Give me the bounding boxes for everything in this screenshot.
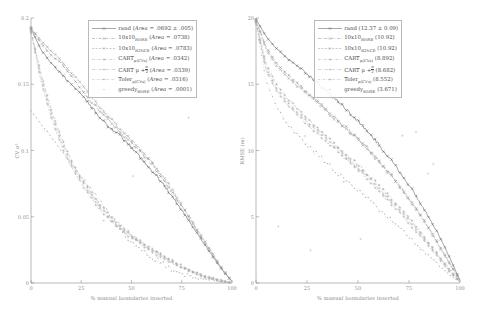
y-tick-label: 0.15 (11, 81, 29, 87)
legend-item: greedyRMSE (Area = .0001) (91, 85, 193, 95)
y-tick-label: 5 (236, 214, 254, 220)
legend-item: 10x10RMSE (Area = .0738) (91, 33, 193, 43)
x-tick-label: 75 (397, 285, 421, 291)
x-tick-label: 75 (170, 285, 194, 291)
legend-line-sample (91, 24, 117, 33)
figure-two-panel: CV σ² % manual boundaries inserted rand … (0, 0, 483, 315)
x-tick-label: 0 (19, 285, 43, 291)
legend-item-label: CARTμ(CVs) (8.892) (343, 55, 394, 63)
legend-line-sample (317, 65, 343, 74)
legend-item-label: CART μ +σ2 (8.682) (343, 65, 395, 74)
legend-item: 10x10RMSE (10.92) (317, 33, 398, 43)
chart-panel-left: CV σ² % manual boundaries inserted rand … (0, 0, 241, 315)
x-axis-label-right: % manual boundaries inserted (256, 295, 460, 301)
y-tick-label: 15 (236, 81, 254, 87)
legend-item-label: 10x10RMSE (Area = .0738) (117, 34, 189, 42)
legend-line-sample (317, 44, 343, 53)
legend-item-label: greedyRMSE (3.671) (343, 86, 397, 94)
legend-left: rand (Area = .0692 ± .005)10x10RMSE (Are… (88, 20, 197, 98)
legend-item-label: CART μ +σ2 (Area = .0339) (117, 65, 190, 74)
legend-item: greedyRMSE (3.671) (317, 85, 398, 95)
legend-line-sample (317, 24, 343, 33)
legend-item: Tolerμ(CVs) (Area = .0316) (91, 74, 193, 84)
legend-line-sample (317, 34, 343, 43)
legend-item-label: CARTμ(CVs) (Area = .0342) (117, 55, 189, 63)
legend-item: rand (12.37 ± 0.09) (317, 23, 398, 33)
legend-item-label: rand (12.37 ± 0.09) (343, 25, 398, 31)
legend-item-label: 10x10R2NCE (Area = .0783) (117, 45, 192, 53)
x-axis-label-left: % manual boundaries inserted (31, 295, 232, 301)
legend-item: 10x10R2NCE (Area = .0783) (91, 44, 193, 54)
legend-item: rand (Area = .0692 ± .005) (91, 23, 193, 33)
chart-panel-right: RMSE (m) % manual boundaries inserted ra… (242, 0, 483, 315)
legend-item: CART μ +σ2 (Area = .0339) (91, 64, 193, 74)
x-tick-label: 0 (244, 285, 268, 291)
legend-item: 10x10R2NCE (10.92) (317, 44, 398, 54)
legend-item-label: 10x10RMSE (10.92) (343, 34, 395, 42)
y-tick-label: 0.1 (11, 148, 29, 154)
legend-line-sample (91, 44, 117, 53)
legend-line-sample (317, 75, 343, 84)
x-tick-label: 50 (120, 285, 144, 291)
legend-line-sample (91, 65, 117, 74)
legend-item: CARTμ(CVs) (8.892) (317, 54, 398, 64)
legend-line-sample (91, 85, 117, 94)
x-tick-label: 100 (448, 285, 472, 291)
legend-line-sample (91, 75, 117, 84)
legend-item-label: rand (Area = .0692 ± .005) (117, 25, 193, 31)
legend-item-label: greedyRMSE (Area = .0001) (117, 86, 192, 94)
legend-item: Tolerμ(CVs) (8.552) (317, 74, 398, 84)
y-tick-label: 10 (236, 148, 254, 154)
legend-item-label: Tolerμ(CVs) (8.552) (343, 76, 393, 84)
legend-item-label: Tolerμ(CVs) (Area = .0316) (117, 76, 187, 84)
x-tick-label: 25 (295, 285, 319, 291)
y-tick-label: 0.2 (11, 15, 29, 21)
x-tick-label: 25 (69, 285, 93, 291)
legend-right: rand (12.37 ± 0.09)10x10RMSE (10.92)10x1… (314, 20, 402, 98)
legend-line-sample (317, 85, 343, 94)
legend-line-sample (91, 34, 117, 43)
legend-line-sample (317, 55, 343, 64)
legend-item-label: 10x10R2NCE (10.92) (343, 45, 397, 53)
y-tick-label: 0.05 (11, 214, 29, 220)
x-tick-label: 50 (346, 285, 370, 291)
legend-line-sample (91, 55, 117, 64)
y-tick-label: 20 (236, 15, 254, 21)
legend-item: CARTμ(CVs) (Area = .0342) (91, 54, 193, 64)
legend-item: CART μ +σ2 (8.682) (317, 64, 398, 74)
